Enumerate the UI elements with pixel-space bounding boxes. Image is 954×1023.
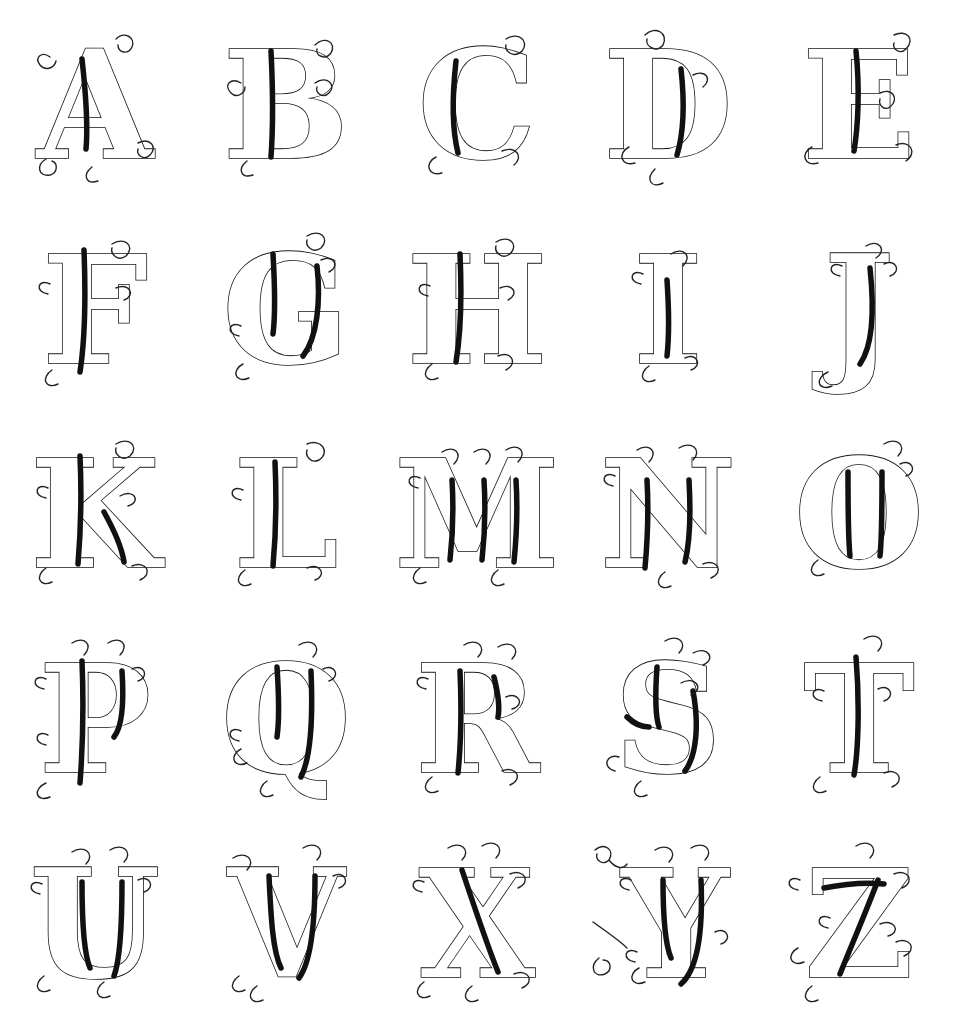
grid-cell: F: [0, 205, 191, 410]
glyph-y: Y: [572, 818, 763, 1023]
letter-v-char: V: [227, 836, 347, 1012]
letter-j-artwork: J: [784, 222, 934, 392]
glyph-r: R: [382, 614, 573, 819]
glyph-d: D: [572, 0, 763, 205]
letter-h-artwork: H: [402, 222, 552, 392]
letter-m-char: M: [394, 426, 560, 602]
letter-v-artwork: V: [211, 836, 361, 1006]
letter-u-artwork: U: [20, 836, 170, 1006]
letter-z-artwork: Z: [784, 836, 934, 1006]
grid-cell: V: [191, 818, 382, 1023]
grid-cell: Y: [572, 818, 763, 1023]
letter-b-artwork: B: [211, 17, 361, 187]
grid-cell: R: [382, 614, 573, 819]
grid-cell: G: [191, 205, 382, 410]
grid-cell: D: [572, 0, 763, 205]
glyph-c: C: [382, 0, 573, 205]
letter-c-char: C: [417, 17, 536, 193]
grid-cell: B: [191, 0, 382, 205]
letter-k-artwork: K: [20, 426, 170, 596]
grid-cell: S: [572, 614, 763, 819]
letter-n-artwork: N: [593, 426, 743, 596]
letter-f-char: F: [42, 222, 149, 398]
glyph-f: F: [0, 205, 191, 410]
glyph-v: V: [191, 818, 382, 1023]
letter-h-char: H: [406, 222, 548, 398]
letter-m-artwork: M: [402, 426, 552, 596]
letter-k-char: K: [30, 426, 165, 602]
glyph-t: T: [763, 614, 954, 819]
letter-p-artwork: P: [20, 631, 170, 801]
grid-cell: C: [382, 0, 573, 205]
glyph-p: P: [0, 614, 191, 819]
grid-cell: Q: [191, 614, 382, 819]
letter-c-artwork: C: [402, 17, 552, 187]
letter-l-artwork: L: [211, 426, 361, 596]
glyph-s: S: [572, 614, 763, 819]
letter-o-char: O: [793, 426, 924, 602]
grid-cell: L: [191, 409, 382, 614]
glyph-j: J: [763, 205, 954, 410]
letter-s-artwork: S: [593, 631, 743, 801]
letter-a-char: A: [35, 17, 156, 193]
letter-y-char: Y: [619, 836, 730, 1012]
letter-d-artwork: D: [593, 17, 743, 187]
glyph-m: M: [382, 409, 573, 614]
grid-cell: E: [763, 0, 954, 205]
letter-i-artwork: I: [593, 222, 743, 392]
letter-g-char: G: [222, 222, 350, 398]
letter-l-char: L: [233, 426, 338, 602]
glyph-l: L: [191, 409, 382, 614]
letter-f-artwork: F: [20, 222, 170, 392]
grid-cell: P: [0, 614, 191, 819]
grid-cell: M: [382, 409, 573, 614]
letter-q-char: Q: [221, 631, 352, 807]
letter-x-char: X: [419, 836, 536, 1012]
glyph-e: E: [763, 0, 954, 205]
grid-cell: O: [763, 409, 954, 614]
alphabet-specimen-sheet: Ornamental Blackletter Alphabet A B: [0, 0, 954, 1023]
letter-e-artwork: E: [784, 17, 934, 187]
glyph-z: Z: [763, 818, 954, 1023]
glyph-h: H: [382, 205, 573, 410]
grid-cell: N: [572, 409, 763, 614]
letter-p-char: P: [39, 631, 152, 807]
glyph-b: B: [191, 0, 382, 205]
grid-cell: X: [382, 818, 573, 1023]
letter-d-char: D: [603, 17, 733, 193]
grid-cell: K: [0, 409, 191, 614]
grid-cell: J: [763, 205, 954, 410]
grid-cell: I: [572, 205, 763, 410]
grid-cell: T: [763, 614, 954, 819]
letter-r-artwork: R: [402, 631, 552, 801]
letter-a-artwork: A: [20, 17, 170, 187]
glyph-x: X: [382, 818, 573, 1023]
glyph-q: Q: [191, 614, 382, 819]
glyph-o: O: [763, 409, 954, 614]
grid-cell: U: [0, 818, 191, 1023]
letter-o-artwork: O: [784, 426, 934, 596]
letter-g-artwork: G: [211, 222, 361, 392]
glyph-g: G: [191, 205, 382, 410]
grid-cell: H: [382, 205, 573, 410]
letter-x-artwork: X: [402, 836, 552, 1006]
grid-cell: Z: [763, 818, 954, 1023]
grid-cell: A: [0, 0, 191, 205]
letter-u-char: U: [30, 836, 161, 1012]
letter-t-artwork: T: [784, 631, 934, 801]
letter-j-char: J: [812, 222, 894, 398]
glyph-u: U: [0, 818, 191, 1023]
glyph-k: K: [0, 409, 191, 614]
glyph-i: I: [572, 205, 763, 410]
glyph-n: N: [572, 409, 763, 614]
letter-y-artwork: Y: [593, 836, 743, 1006]
glyph-a: A: [0, 0, 191, 205]
letter-q-artwork: Q: [211, 631, 361, 801]
letter-grid: A B: [0, 0, 954, 1023]
